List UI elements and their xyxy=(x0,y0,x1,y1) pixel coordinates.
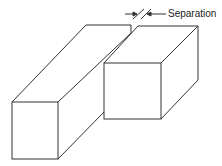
right-block xyxy=(104,26,198,119)
separation-indicator xyxy=(125,9,166,19)
two-blocks-diagram xyxy=(0,0,222,166)
separation-label: Separation xyxy=(168,8,216,19)
